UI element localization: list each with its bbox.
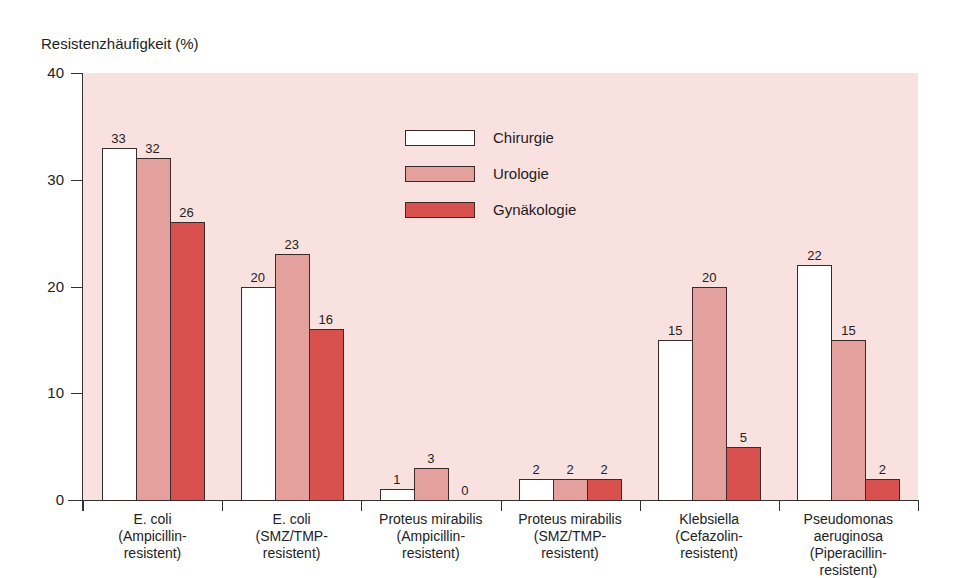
legend-swatch (405, 130, 475, 146)
x-tick (222, 500, 223, 511)
y-tick-label: 20 (28, 279, 64, 295)
category-label: Pseudomonasaeruginosa(Piperacillin-resis… (779, 511, 918, 578)
y-tick (71, 393, 83, 394)
category-label: Proteus mirabilis(SMZ/TMP-resistent) (501, 511, 640, 562)
value-label: 15 (655, 324, 695, 338)
value-label: 26 (167, 206, 207, 220)
y-tick-label: 0 (28, 492, 64, 508)
value-label: 2 (584, 463, 624, 477)
value-label: 20 (238, 271, 278, 285)
x-tick (779, 500, 780, 511)
category-label: E. coli(SMZ/TMP-resistent) (222, 511, 361, 562)
y-tick (71, 73, 83, 74)
bar-urologie (136, 158, 171, 501)
value-label: 32 (133, 142, 173, 156)
bar-urologie (831, 340, 866, 501)
value-label: 16 (306, 313, 346, 327)
bar-gynäkologie (865, 479, 900, 501)
bar-urologie (553, 479, 588, 501)
bar-urologie (275, 254, 310, 501)
value-label: 20 (689, 271, 729, 285)
bar-chirurgie (241, 287, 276, 502)
category-label: Proteus mirabilis(Ampicillin-resistent) (361, 511, 500, 562)
legend-label: Chirurgie (493, 129, 554, 146)
value-label: 1 (377, 473, 417, 487)
y-tick (71, 180, 83, 181)
x-tick (640, 500, 641, 511)
y-tick-label: 40 (28, 65, 64, 81)
bar-urologie (692, 287, 727, 502)
legend-swatch (405, 202, 475, 218)
legend-label: Gynäkologie (493, 201, 576, 218)
bar-chirurgie (658, 340, 693, 501)
x-tick (918, 500, 919, 511)
value-label: 23 (272, 238, 312, 252)
value-label: 0 (445, 484, 485, 498)
value-label: 3 (411, 452, 451, 466)
y-tick-label: 10 (28, 385, 64, 401)
value-label: 22 (794, 249, 834, 263)
bar-gynäkologie (309, 329, 344, 501)
x-tick (361, 500, 362, 511)
bar-chirurgie (519, 479, 554, 501)
y-tick (71, 500, 83, 501)
value-label: 2 (862, 463, 902, 477)
x-tick (501, 500, 502, 511)
y-axis-line (82, 73, 83, 511)
category-label: E. coli(Ampicillin-resistent) (83, 511, 222, 562)
value-label: 15 (828, 324, 868, 338)
category-label: Klebsiella(Cefazolin-resistent) (640, 511, 779, 562)
bar-chirurgie (102, 148, 137, 501)
value-label: 5 (723, 431, 763, 445)
y-axis-label: Resistenzhäufigkeit (%) (41, 35, 199, 52)
bar-gynäkologie (726, 447, 761, 501)
bar-gynäkologie (170, 222, 205, 501)
bar-chirurgie (380, 489, 415, 501)
bar-gynäkologie (587, 479, 622, 501)
bar-chirurgie (797, 265, 832, 501)
y-tick-label: 30 (28, 172, 64, 188)
x-tick (83, 500, 84, 511)
y-tick (71, 287, 83, 288)
legend-swatch (405, 166, 475, 182)
legend-label: Urologie (493, 165, 549, 182)
bar-urologie (414, 468, 449, 501)
